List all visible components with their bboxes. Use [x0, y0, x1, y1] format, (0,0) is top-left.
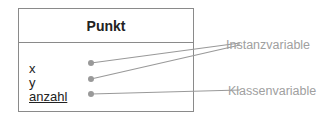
dot-x [88, 60, 94, 66]
label-klassenvariable: Klassenvariable [228, 84, 316, 98]
connector-anzahl-to-klassen [91, 90, 240, 94]
dot-anzahl [88, 91, 94, 97]
dot-y [88, 76, 94, 82]
label-instanzvariable: Instanzvariable [226, 38, 310, 52]
connector-lines [0, 0, 332, 120]
connector-y-to-instanz [91, 45, 240, 79]
connector-x-to-instanz [91, 43, 240, 63]
